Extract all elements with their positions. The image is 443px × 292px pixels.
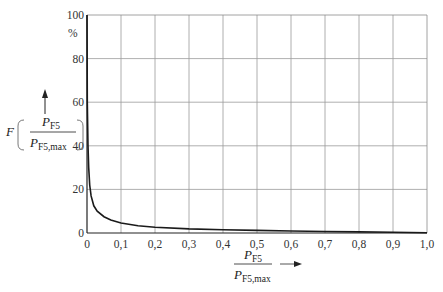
- x-tick-label: 0,1: [114, 238, 129, 251]
- x-axis-ticks: 00,10,20,30,40,50,60,70,80,91,0: [84, 238, 434, 251]
- y-unit-label: %: [68, 27, 78, 39]
- x-tick-label: 0,2: [148, 238, 163, 251]
- x-tick-label: 0,5: [250, 238, 265, 251]
- x-tick-label: 0,7: [318, 238, 333, 251]
- x-tick-label: 0: [84, 238, 90, 250]
- x-tick-label: 0,9: [386, 238, 401, 251]
- y-axis-ticks: 020406080100: [67, 9, 85, 239]
- grid-lines: [87, 15, 427, 233]
- x-tick-label: 0,8: [352, 238, 367, 251]
- chart: 020406080100 00,10,20,30,40,50,60,70,80,…: [0, 0, 443, 292]
- y-axis-arrow-icon: [42, 89, 48, 114]
- x-tick-label: 0,6: [284, 238, 299, 251]
- svg-text:PF5,max: PF5,max: [29, 135, 67, 152]
- svg-text:F: F: [5, 124, 15, 139]
- y-tick-label: 60: [73, 96, 85, 108]
- y-tick-label: 100: [67, 9, 85, 21]
- y-tick-label: 80: [73, 53, 85, 65]
- svg-text:PF5,max: PF5,max: [233, 267, 271, 284]
- x-axis-label: PF5 PF5,max: [233, 247, 272, 284]
- y-tick-label: 20: [73, 183, 85, 195]
- x-tick-label: 0,4: [216, 238, 231, 251]
- x-tick-label: 0,3: [182, 238, 197, 251]
- y-axis-label: F PF5 PF5,max: [5, 114, 83, 152]
- x-tick-label: 1,0: [420, 238, 435, 251]
- svg-text:PF5: PF5: [41, 114, 60, 131]
- x-axis-arrow-icon: [280, 261, 302, 267]
